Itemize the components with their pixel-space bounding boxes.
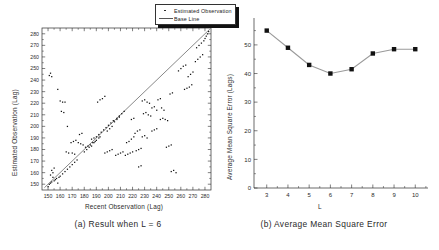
panel-b-caption: (b) Average Mean Square Error	[218, 219, 430, 229]
svg-text:30: 30	[244, 99, 251, 105]
svg-text:250: 250	[164, 193, 173, 199]
panel-b-y-axis-title: Average Mean Square Error (Lags)	[226, 74, 233, 180]
svg-text:0: 0	[248, 185, 252, 191]
legend-marker-dot-icon	[158, 7, 174, 14]
svg-text:40: 40	[244, 71, 251, 77]
svg-text:260: 260	[30, 54, 39, 60]
svg-text:3: 3	[265, 192, 269, 198]
panel-a-y-axis-title: Estimated Observation (Lag)	[11, 89, 18, 176]
svg-text:280: 280	[201, 193, 210, 199]
svg-text:150: 150	[44, 193, 53, 199]
panel-a-caption: (a) Result when L = 6	[18, 219, 218, 229]
legend-label-base-line: Base Line	[174, 16, 199, 22]
svg-text:200: 200	[104, 193, 113, 199]
svg-text:270: 270	[189, 193, 198, 199]
panel-a-x-axis-title: Recent Observation (Lag)	[44, 203, 204, 210]
legend-label-estimated-observation: Estimated Observation	[174, 8, 232, 14]
svg-text:160: 160	[56, 193, 65, 199]
svg-text:4: 4	[286, 192, 290, 198]
legend-box: Estimated Observation Base Line	[155, 4, 236, 25]
panel-b-x-axis-title: L	[300, 203, 340, 210]
svg-text:240: 240	[152, 193, 161, 199]
scatter-plot-svg: 1501601701801902002102202302402502602702…	[0, 0, 218, 216]
legend-item-estimated-observation: Estimated Observation	[158, 7, 232, 14]
svg-text:20: 20	[244, 128, 251, 134]
svg-text:210: 210	[116, 193, 125, 199]
svg-text:230: 230	[140, 193, 149, 199]
svg-text:10: 10	[412, 192, 419, 198]
svg-text:210: 210	[30, 112, 39, 118]
svg-text:10: 10	[244, 157, 251, 163]
legend-marker-line-icon	[158, 15, 174, 22]
svg-text:250: 250	[30, 65, 39, 71]
svg-text:220: 220	[128, 193, 137, 199]
figure-container: 1501601701801902002102202302402502602702…	[0, 0, 439, 250]
line-chart-svg: 01020304050345678910	[218, 0, 439, 216]
svg-text:50: 50	[244, 42, 251, 48]
panel-b-line-chart: 01020304050345678910 Average Mean Square…	[218, 0, 439, 216]
svg-text:220: 220	[30, 100, 39, 106]
svg-text:270: 270	[30, 42, 39, 48]
svg-text:280: 280	[30, 31, 39, 37]
svg-text:180: 180	[80, 193, 89, 199]
svg-text:7: 7	[350, 192, 354, 198]
svg-text:9: 9	[392, 192, 396, 198]
svg-text:170: 170	[68, 193, 77, 199]
svg-text:190: 190	[30, 135, 39, 141]
svg-text:6: 6	[329, 192, 333, 198]
svg-text:150: 150	[30, 181, 39, 187]
svg-text:190: 190	[92, 193, 101, 199]
svg-text:240: 240	[30, 77, 39, 83]
svg-text:200: 200	[30, 123, 39, 129]
panel-a-scatter-plot: 1501601701801902002102202302402502602702…	[0, 0, 218, 216]
svg-text:230: 230	[30, 89, 39, 95]
svg-text:170: 170	[30, 158, 39, 164]
svg-text:8: 8	[371, 192, 375, 198]
legend-item-base-line: Base Line	[158, 15, 232, 22]
svg-text:260: 260	[176, 193, 185, 199]
svg-text:5: 5	[307, 192, 311, 198]
svg-text:180: 180	[30, 146, 39, 152]
svg-text:160: 160	[30, 170, 39, 176]
